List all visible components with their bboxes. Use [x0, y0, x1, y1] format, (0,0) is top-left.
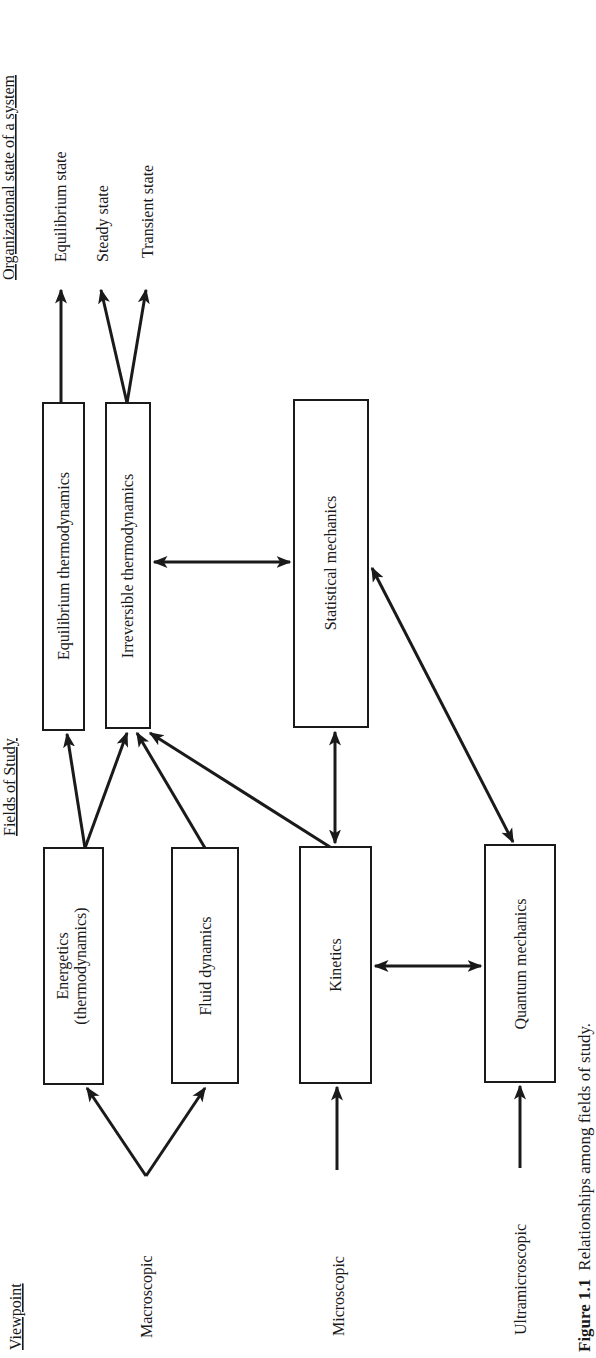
arrow-kinetics-irreversible	[150, 733, 330, 847]
header-organizational-state: Organizational state of a system	[0, 74, 18, 280]
arrow-macroscopic-energetics	[87, 1088, 146, 1176]
fields-of-study-diagram: Viewpoint Fields of Study Organizational…	[0, 0, 596, 1358]
arrow-energetics-equilibrium	[67, 734, 85, 848]
label-equilibrium-thermodynamics: Equilibrium thermodynamics	[55, 472, 73, 660]
arrow-macroscopic-fluid	[146, 1088, 205, 1176]
viewpoint-macroscopic: Macroscopic	[138, 1255, 156, 1338]
viewpoint-ultramicroscopic: Ultramicroscopic	[512, 1224, 530, 1335]
label-energetics-sub: (thermodynamics)	[72, 907, 90, 1024]
viewpoint-microscopic: Microscopic	[330, 1256, 348, 1336]
state-equilibrium: Equilibrium state	[52, 151, 70, 262]
arrow-irreversible-transient	[127, 290, 146, 403]
arrow-energetics-irreversible	[85, 733, 127, 848]
label-statistical-mechanics: Statistical mechanics	[322, 496, 339, 631]
arrow-irreversible-steady	[101, 290, 127, 403]
header-fields-of-study: Fields of Study	[1, 738, 19, 836]
state-steady: Steady state	[94, 185, 112, 262]
caption-number: Figure 1.1	[575, 1279, 594, 1352]
arrow-statistical-quantum	[372, 568, 513, 842]
caption-text: Relationships among fields of study.	[575, 1023, 594, 1271]
label-kinetics: Kinetics	[327, 938, 344, 991]
label-irreversible-thermodynamics: Irreversible thermodynamics	[119, 474, 137, 658]
label-fluid-dynamics: Fluid dynamics	[197, 916, 215, 1015]
state-transient: Transient state	[139, 165, 156, 258]
figure-caption: Figure 1.1Relationships among fields of …	[575, 1023, 594, 1352]
arrow-fluid-irreversible	[137, 733, 205, 848]
label-energetics: Energetics	[54, 932, 72, 999]
label-quantum-mechanics: Quantum mechanics	[512, 898, 529, 1029]
header-viewpoint: Viewpoint	[7, 1283, 25, 1350]
